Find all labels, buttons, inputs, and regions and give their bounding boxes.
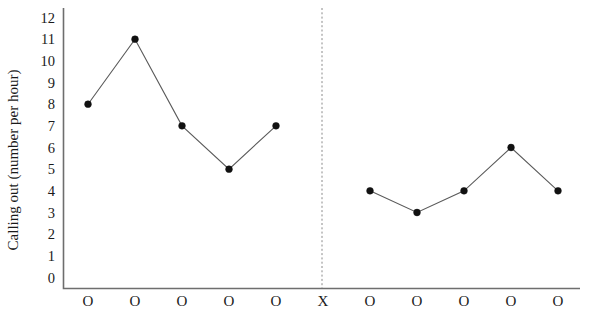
y-tick-label: 4 [48, 183, 56, 199]
data-point [132, 36, 139, 43]
data-point [273, 122, 280, 129]
x-tick-label: O [83, 293, 94, 309]
line-chart: Calling out (number per hour) 1211109876… [0, 0, 592, 318]
series-line-1 [88, 39, 276, 169]
y-tick-label: 2 [48, 226, 55, 242]
series-line-2 [370, 148, 558, 213]
x-tick-label: O [271, 293, 282, 309]
y-axis-title: Calling out (number per hour) [5, 70, 22, 251]
x-tick-label: O [177, 293, 188, 309]
x-tick-labels: OOOOOXOOOOO [83, 293, 564, 309]
y-tick-label: 5 [48, 161, 55, 177]
y-tick-label: 10 [41, 53, 56, 69]
data-point [508, 144, 515, 151]
data-point [226, 166, 233, 173]
x-tick-label: O [224, 293, 235, 309]
x-tick-label: O [412, 293, 423, 309]
y-tick-label: 11 [41, 31, 55, 47]
x-tick-label: O [130, 293, 141, 309]
y-tick-label: 0 [48, 270, 55, 286]
series-lines [88, 39, 558, 212]
data-point [555, 187, 562, 194]
x-tick-label: X [318, 293, 329, 309]
data-point [367, 187, 374, 194]
y-tick-label: 7 [48, 118, 55, 134]
y-tick-label: 8 [48, 96, 55, 112]
data-point-markers [85, 36, 562, 216]
x-tick-label: O [506, 293, 517, 309]
x-tick-label: O [553, 293, 564, 309]
data-point [414, 209, 421, 216]
y-tick-label: 9 [48, 75, 55, 91]
data-point [85, 101, 92, 108]
data-point [461, 187, 468, 194]
y-tick-label: 12 [41, 10, 56, 26]
chart-container: Calling out (number per hour) 1211109876… [0, 0, 592, 318]
y-tick-labels: 1211109876543210 [41, 10, 56, 286]
x-tick-label: O [459, 293, 470, 309]
y-tick-label: 1 [48, 248, 55, 264]
x-tick-label: O [365, 293, 376, 309]
y-tick-label: 3 [48, 205, 55, 221]
data-point [179, 122, 186, 129]
y-tick-label: 6 [48, 140, 55, 156]
